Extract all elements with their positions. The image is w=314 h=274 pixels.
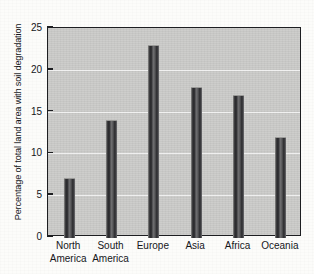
bar [106,120,117,238]
category-label-line2: America [79,253,143,266]
gridline [48,153,300,154]
y-axis-tick-label: 5 [12,189,42,200]
bar [64,178,75,238]
gridline [48,112,300,113]
y-axis-tick [47,110,53,112]
bar [148,45,159,238]
plot-texture [48,28,300,235]
y-axis-tick-label: 15 [12,105,42,116]
category-label-line1: North [56,240,80,251]
y-axis-tick-label: 20 [12,63,42,74]
y-axis-tick [47,68,53,70]
bar [275,137,286,238]
y-axis-tick [47,193,53,195]
bar [191,87,202,238]
category-label-line1: Asia [185,240,204,251]
bar [233,95,244,238]
y-axis-tick-label: 10 [12,147,42,158]
category-label-line1: Africa [225,240,251,251]
plot-area [47,27,301,236]
y-axis-tick [47,26,53,28]
category-label-line1: Oceania [261,240,298,251]
y-axis-tick [47,235,53,237]
category-label-line1: South [97,240,123,251]
gridline [48,70,300,71]
y-axis-tick [47,152,53,154]
x-axis-category-label: Oceania [248,240,312,253]
y-axis-tick-label: 25 [12,22,42,33]
gridline [48,195,300,196]
bar-chart-figure: Percentage of total land area with soil … [0,0,314,274]
